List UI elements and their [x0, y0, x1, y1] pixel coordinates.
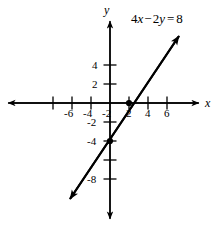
x-tick-label--2: -2	[102, 108, 111, 119]
y-axis-letter: y	[104, 4, 109, 16]
x-tick-label-2: 2	[126, 108, 132, 119]
equation-var-y: y	[159, 11, 165, 26]
y-tick-label-2: 2	[92, 79, 98, 90]
equation-minus: −	[144, 11, 151, 26]
equation-annotation: 4x−2y=8	[131, 12, 183, 25]
equation-equals: =	[167, 11, 174, 26]
equation-constant: 8	[176, 11, 183, 26]
x-tick-label-4: 4	[145, 108, 151, 119]
y-tick-label--8: -8	[87, 174, 96, 185]
y-tick-label-4: 4	[92, 60, 98, 71]
x-axis-letter: x	[205, 97, 210, 109]
equation-var-x: x	[138, 11, 144, 26]
x-tick-label-6: 6	[164, 108, 170, 119]
coordinate-graph-figure: -6 -4 -2 2 4 6 4 2 -2 -4 -8 y x 4x−2y=8	[0, 0, 220, 227]
point-x-intercept	[126, 100, 132, 106]
y-tick-label--2: -2	[87, 117, 96, 128]
x-tick-label--6: -6	[64, 108, 73, 119]
point-y-intercept	[107, 138, 113, 144]
y-tick-label--4: -4	[87, 136, 96, 147]
